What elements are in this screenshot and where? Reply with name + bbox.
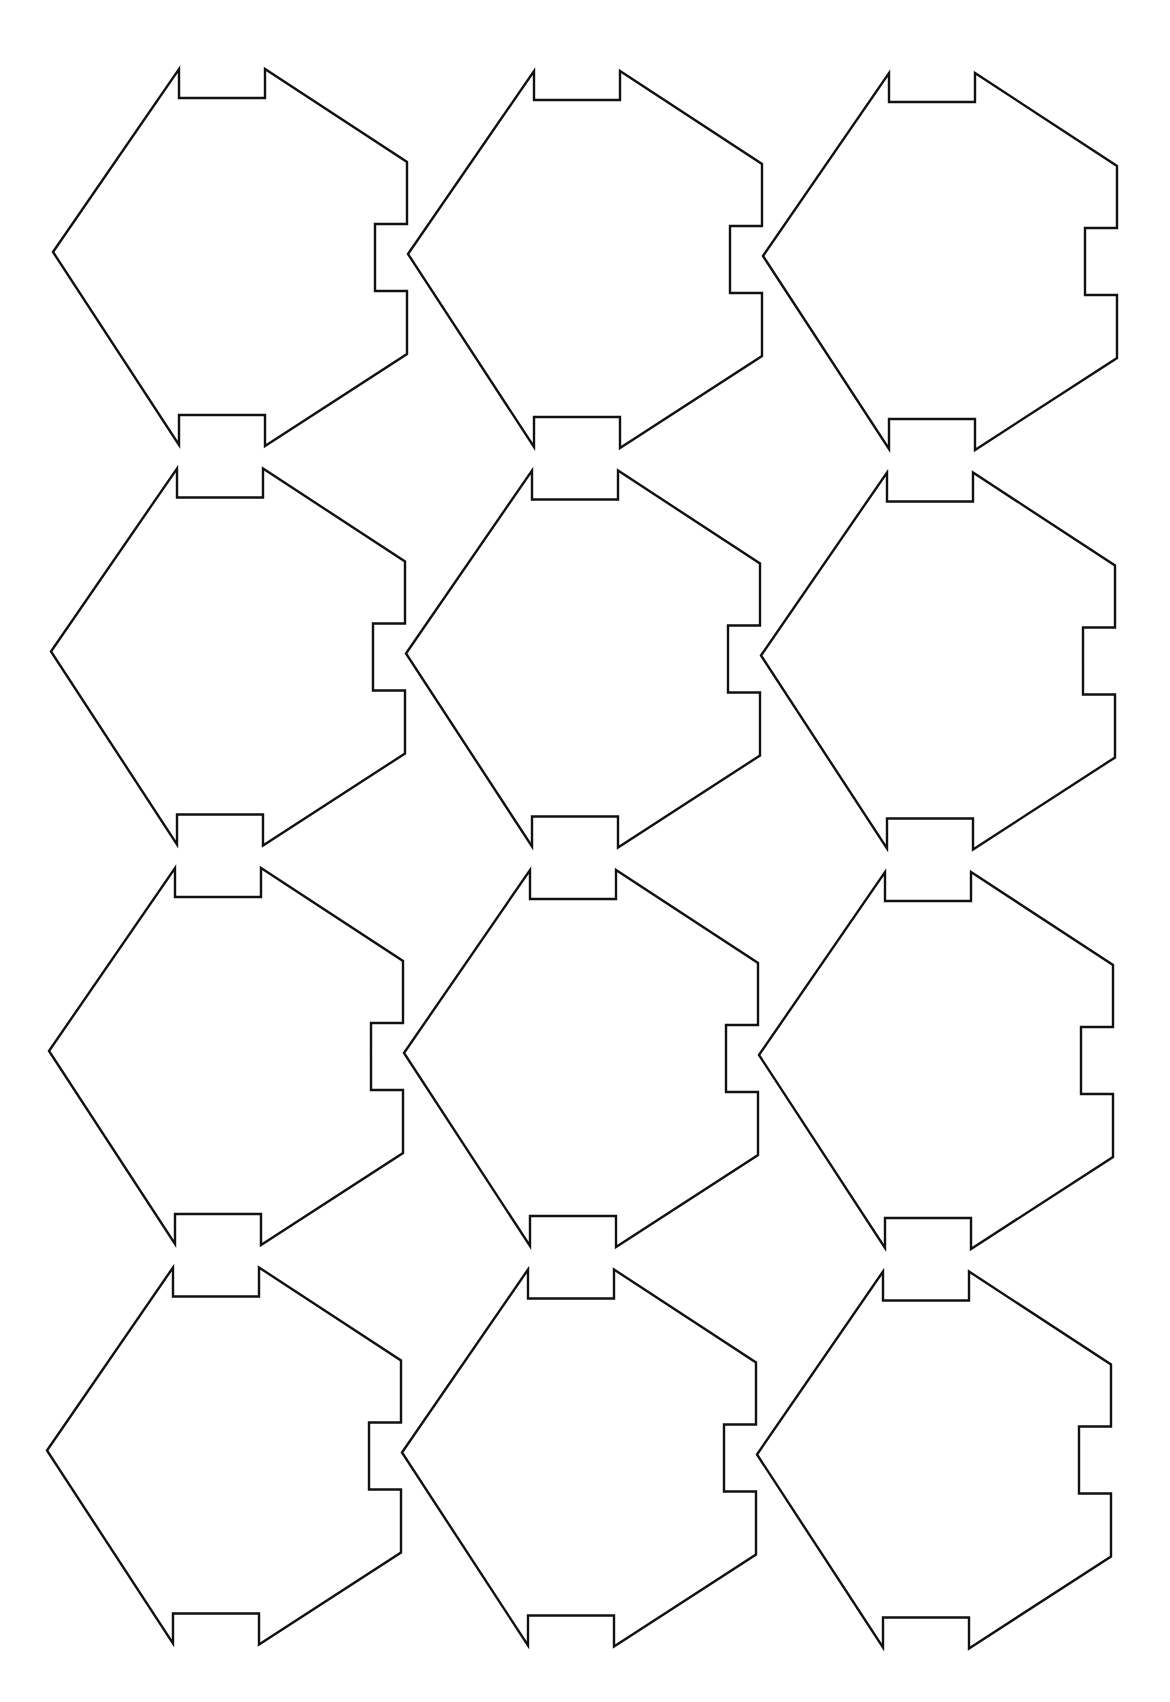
hexagon-outline (763, 73, 1117, 450)
puzzle-piece-r2-c3 (761, 473, 1115, 850)
hexagon-outline (759, 872, 1113, 1249)
puzzle-piece-r1-c3 (763, 73, 1117, 450)
puzzle-sheet (0, 0, 1170, 1702)
puzzle-piece-r4-c2 (402, 1270, 756, 1647)
hexagon-outline (404, 870, 758, 1247)
puzzle-piece-r4-c3 (757, 1272, 1111, 1649)
puzzle-piece-r3-c1 (49, 868, 403, 1245)
hexagon-outline (408, 71, 762, 448)
hexagon-outline (51, 469, 405, 846)
hexagon-outline (761, 473, 1115, 850)
hexagon-outline (402, 1270, 756, 1647)
puzzle-piece-r1-c2 (408, 71, 762, 448)
hexagon-outline (49, 868, 403, 1245)
puzzle-piece-r2-c2 (406, 471, 760, 848)
puzzle-piece-r1-c1 (53, 69, 407, 446)
puzzle-piece-r2-c1 (51, 469, 405, 846)
puzzle-piece-r3-c3 (759, 872, 1113, 1249)
hexagon-outline (757, 1272, 1111, 1649)
hexagon-outline (53, 69, 407, 446)
hexagon-outline (406, 471, 760, 848)
hexagon-outline (47, 1268, 401, 1645)
puzzle-piece-r3-c2 (404, 870, 758, 1247)
puzzle-piece-r4-c1 (47, 1268, 401, 1645)
